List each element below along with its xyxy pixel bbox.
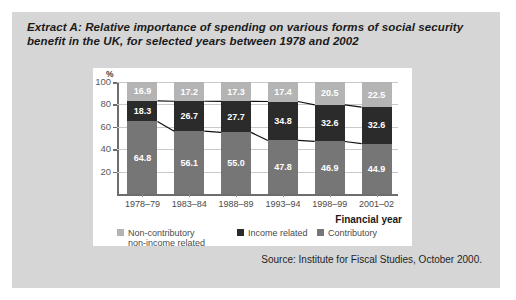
legend-item[interactable]: Income related	[237, 228, 308, 238]
legend-swatch-icon	[117, 229, 124, 236]
connector-line	[298, 140, 315, 141]
connector-line	[157, 121, 174, 131]
legend-swatch-icon	[317, 229, 324, 236]
y-axis-tick-label: 80	[100, 98, 111, 109]
chart-card: % 20406080100 64.818.316.956.126.717.255…	[93, 68, 412, 246]
legend-label: Contributory	[328, 228, 377, 238]
legend-label: Non-contributorynon-income related	[128, 228, 205, 248]
connector-line	[345, 141, 362, 143]
x-axis-tick	[330, 194, 331, 197]
x-axis-title: Financial year	[335, 214, 402, 225]
x-axis-tick	[283, 194, 284, 197]
legend-swatch-icon	[237, 229, 244, 236]
connector-line	[251, 132, 268, 140]
x-axis-label: 1978–79	[125, 199, 160, 209]
connector-line	[298, 101, 315, 104]
x-axis-tick	[236, 194, 237, 197]
y-axis-tick-label: 60	[100, 121, 111, 132]
chart-plot-area: % 20406080100 64.818.316.956.126.717.255…	[117, 82, 398, 194]
x-axis-label: 1998–99	[312, 199, 347, 209]
legend-item[interactable]: Non-contributorynon-income related	[117, 228, 205, 248]
connector-line	[345, 105, 362, 107]
x-axis-label: 1993–94	[265, 199, 300, 209]
y-axis-tick-label: 20	[100, 166, 111, 177]
legend-item[interactable]: Contributory	[317, 228, 377, 238]
extract-figure: Extract A: Relative importance of spendi…	[0, 0, 516, 300]
x-axis-label: 1983–84	[172, 199, 207, 209]
segment-connector-lines	[117, 82, 398, 194]
connector-line	[204, 131, 221, 132]
legend-label: Income related	[248, 228, 308, 238]
x-axis-line	[117, 194, 398, 196]
x-axis-tick	[189, 194, 190, 197]
x-axis-label: 1988–89	[219, 199, 254, 209]
x-axis-tick	[142, 194, 143, 197]
x-axis-tick	[377, 194, 378, 197]
x-axis-label: 2001–02	[359, 199, 394, 209]
y-axis-tick-label: 40	[100, 143, 111, 154]
extract-title: Extract A: Relative importance of spendi…	[27, 20, 479, 48]
source-caption: Source: Institute for Fiscal Studies, Oc…	[261, 254, 482, 265]
y-axis-tick-label: 100	[95, 76, 111, 87]
